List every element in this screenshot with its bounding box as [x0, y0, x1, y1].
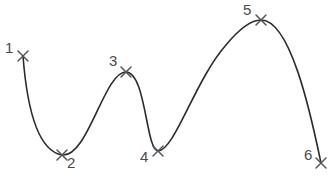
point-label: 6	[304, 146, 312, 163]
point-label: 1	[5, 39, 13, 56]
point-label: 2	[67, 154, 75, 171]
curve-diagram: 123456	[0, 0, 333, 176]
point-label: 3	[109, 52, 117, 69]
point-label: 4	[140, 148, 148, 165]
x-marker-icon	[153, 146, 163, 156]
curve-path	[23, 20, 321, 163]
point-label: 5	[243, 1, 251, 18]
